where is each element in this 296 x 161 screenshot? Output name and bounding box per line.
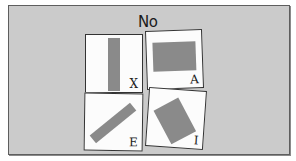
card-e[interactable]: E	[84, 93, 144, 152]
card-letter: I	[193, 133, 199, 147]
tilted-rectangle-shape	[154, 98, 197, 145]
card-a[interactable]: A	[145, 29, 204, 90]
card-letter: A	[190, 72, 199, 86]
vertical-bar-shape	[108, 38, 120, 91]
card-letter: E	[129, 135, 138, 149]
card-x[interactable]: X	[85, 34, 143, 93]
card-letter: X	[129, 77, 138, 91]
horizontal-rectangle-shape	[152, 41, 196, 71]
prompt-label: No	[138, 13, 157, 31]
card-i[interactable]: I	[145, 87, 207, 150]
